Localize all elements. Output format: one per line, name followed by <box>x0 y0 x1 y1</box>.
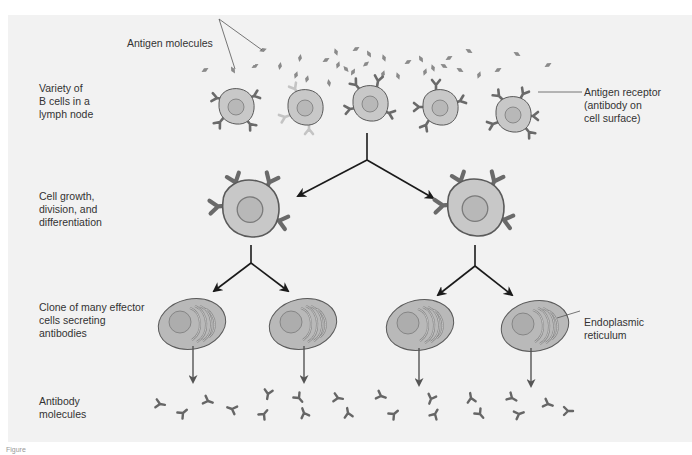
endoplasmic-reticulum-label: Endoplasmic reticulum <box>584 316 644 342</box>
division-arrows <box>214 245 512 295</box>
row-label-clone: Clone of many effector cells secreting a… <box>39 301 144 340</box>
b-cell-2 <box>279 83 323 134</box>
proliferating-cell-left <box>209 172 288 237</box>
b-cell-4 <box>414 80 466 131</box>
row-label-variety: Variety of B cells in a lymph node <box>39 82 93 121</box>
effector-cell-4 <box>497 294 574 357</box>
row-label-antibody: Antibody molecules <box>39 395 86 421</box>
b-cell-5 <box>487 88 538 139</box>
antigen-molecules <box>201 45 553 87</box>
effector-cell-2 <box>265 292 342 355</box>
secretion-arrows <box>193 346 531 386</box>
antigen-callout-leaders <box>219 19 262 69</box>
selection-arrows <box>298 133 433 198</box>
row-label-growth: Cell growth, division, and differentiati… <box>39 190 102 229</box>
antigen-molecules-label: Antigen molecules <box>127 37 213 50</box>
antibody-molecules <box>155 389 573 420</box>
clonal-selection-diagram <box>0 0 692 455</box>
proliferating-cell-right <box>434 171 513 236</box>
antigen-receptor-label: Antigen receptor (antibody on cell surfa… <box>584 86 661 125</box>
figure-caption: Figure <box>6 446 26 453</box>
b-cell-1 <box>211 89 260 131</box>
effector-cell-1 <box>154 292 231 355</box>
b-cell-3 <box>344 75 395 121</box>
effector-cell-3 <box>382 293 459 356</box>
